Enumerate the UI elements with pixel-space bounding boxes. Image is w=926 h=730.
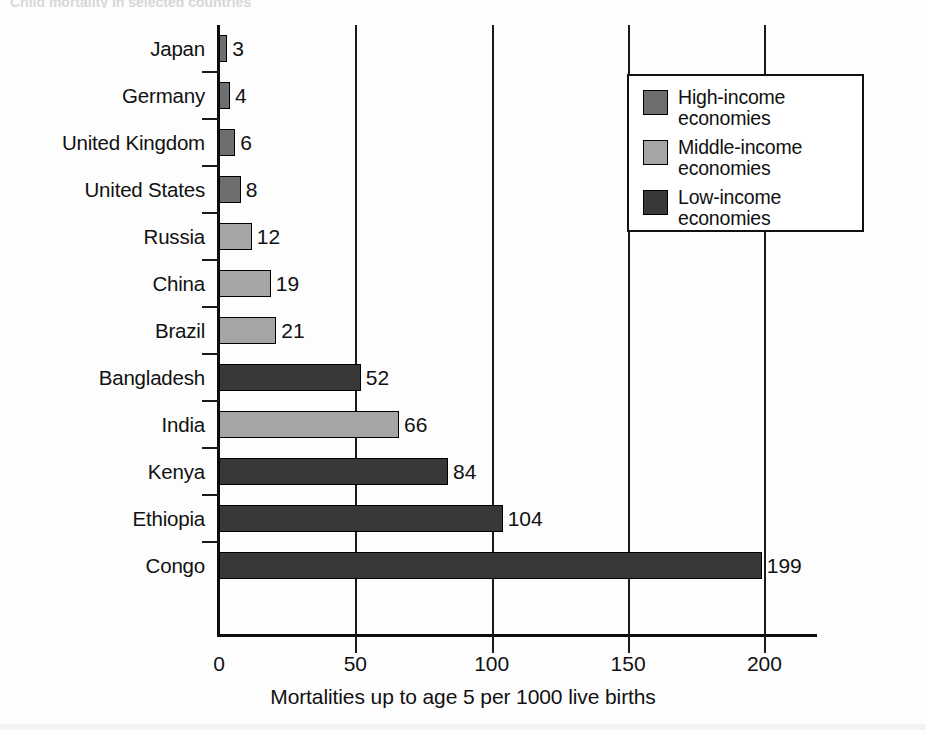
legend-item-low-income[interactable]: Low-income economies — [643, 187, 862, 229]
bar-value-label: 19 — [276, 270, 299, 297]
bar-value-label: 3 — [232, 35, 244, 62]
bar-row: Japan3 — [219, 25, 819, 72]
category-label: Brazil — [155, 307, 205, 354]
legend-box: High-income economies Middle-income econ… — [627, 74, 864, 232]
bar[interactable] — [219, 458, 448, 485]
x-axis-title: Mortalities up to age 5 per 1000 live bi… — [0, 685, 926, 709]
category-label: United States — [85, 166, 205, 213]
category-label: Congo — [146, 542, 205, 589]
x-axis-tick-label: 150 — [611, 652, 646, 676]
legend-item-middle-income[interactable]: Middle-income economies — [643, 137, 862, 179]
bar-row: Bangladesh52 — [219, 354, 819, 401]
bar[interactable] — [219, 176, 241, 203]
x-axis-tick-label: 200 — [747, 652, 782, 676]
category-label: Russia — [144, 213, 205, 260]
bar-row: Congo199 — [219, 542, 819, 589]
bar-value-label: 6 — [240, 129, 252, 156]
x-axis-tick-200 — [764, 637, 766, 653]
bar-row: Kenya84 — [219, 448, 819, 495]
bar-value-label: 84 — [453, 458, 476, 485]
bar-value-label: 66 — [404, 411, 427, 438]
bar-row: Brazil21 — [219, 307, 819, 354]
x-axis-tick-label: 50 — [344, 652, 367, 676]
cropped-header-caption: Child mortality in selected countries — [10, 0, 251, 8]
legend-label-middle-income: Middle-income economies — [678, 137, 802, 179]
bar[interactable] — [219, 411, 399, 438]
bar[interactable] — [219, 82, 230, 109]
page-bottom-edge — [0, 724, 926, 730]
bar-value-label: 52 — [366, 364, 389, 391]
bar-value-label: 199 — [767, 552, 802, 579]
bar-value-label: 8 — [246, 176, 258, 203]
legend-label-low-income: Low-income economies — [678, 187, 781, 229]
category-label: China — [152, 260, 205, 307]
bar[interactable] — [219, 364, 361, 391]
chart-container: Child mortality in selected countries Ja… — [0, 0, 926, 730]
bar[interactable] — [219, 223, 252, 250]
bar-value-label: 104 — [508, 505, 543, 532]
category-label: Ethiopia — [133, 495, 205, 542]
category-label: Kenya — [148, 448, 205, 495]
bar[interactable] — [219, 270, 271, 297]
bar-row: Ethiopia104 — [219, 495, 819, 542]
x-axis-tick-150 — [628, 637, 630, 653]
legend-swatch-middle-income — [643, 140, 668, 165]
bar-value-label: 12 — [257, 223, 280, 250]
bar-row: India66 — [219, 401, 819, 448]
bar[interactable] — [219, 552, 762, 579]
bar[interactable] — [219, 505, 503, 532]
legend-label-high-income: High-income economies — [678, 87, 785, 129]
category-label: United Kingdom — [62, 119, 205, 166]
x-axis-tick-50 — [355, 637, 357, 653]
bar[interactable] — [219, 35, 227, 62]
x-axis-tick-label: 0 — [213, 652, 225, 676]
bar-row: China19 — [219, 260, 819, 307]
bar[interactable] — [219, 129, 235, 156]
bar-value-label: 21 — [281, 317, 304, 344]
bar-value-label: 4 — [235, 82, 247, 109]
legend-swatch-high-income — [643, 90, 668, 115]
legend-swatch-low-income — [643, 190, 668, 215]
bar[interactable] — [219, 317, 276, 344]
category-label: India — [162, 401, 205, 448]
legend-item-high-income[interactable]: High-income economies — [643, 87, 862, 129]
category-label: Germany — [122, 72, 205, 119]
category-label: Bangladesh — [99, 354, 205, 401]
x-axis-tick-label: 100 — [474, 652, 509, 676]
category-label: Japan — [150, 25, 205, 72]
x-axis-tick-100 — [492, 637, 494, 653]
